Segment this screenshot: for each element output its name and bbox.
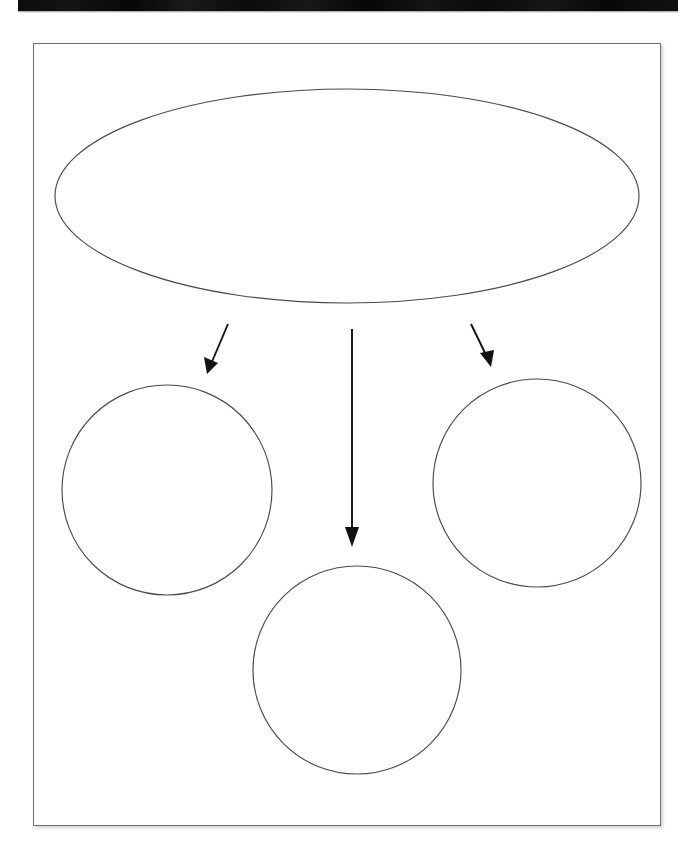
detail-circle-left[interactable]	[62, 385, 272, 595]
detail-circle-right[interactable]	[433, 379, 641, 587]
detail-circle-bottom[interactable]	[253, 566, 461, 774]
scanner-bar-shadow	[18, 11, 678, 13]
worksheet-page	[0, 0, 696, 860]
main-topic-ellipse[interactable]	[55, 89, 639, 303]
scanner-dark-bar	[18, 0, 678, 11]
